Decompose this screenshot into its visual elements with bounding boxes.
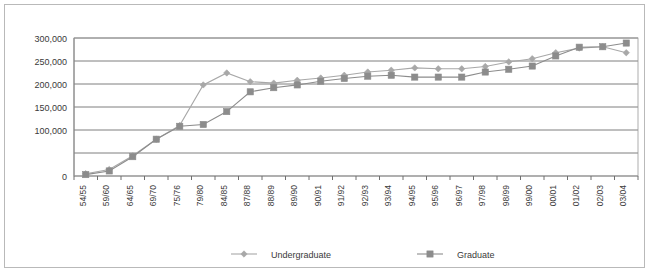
x-tick-label: 91/92 [336, 185, 346, 207]
chart-legend: UndergraduateGraduate [231, 250, 495, 260]
series-lines-group [86, 43, 627, 175]
x-tick-label: 64/65 [125, 185, 135, 207]
data-point-marker [83, 172, 89, 178]
data-point-marker [529, 63, 535, 69]
data-point-marker [200, 121, 206, 127]
x-tick-label: 87/88 [242, 185, 252, 207]
x-tick-label: 79/80 [195, 185, 205, 207]
x-tick-label: 03/04 [618, 185, 628, 207]
data-point-marker [412, 65, 418, 71]
data-point-marker [153, 136, 159, 142]
data-point-marker [318, 78, 324, 84]
chart-svg: 0100,000150,000200,000250,000300,000 54/… [5, 5, 646, 269]
x-tick-label: 59/60 [101, 185, 111, 207]
x-tick-label: 92/93 [360, 185, 370, 207]
x-tick-label: 02/03 [595, 185, 605, 207]
x-tick-label: 93/94 [383, 185, 393, 207]
x-tick-label: 99/00 [524, 185, 534, 207]
x-tick-label: 88/89 [266, 185, 276, 207]
data-point-marker [459, 74, 465, 80]
data-point-marker [623, 40, 629, 46]
x-tick-label: 97/98 [477, 185, 487, 207]
data-point-marker [200, 82, 206, 88]
y-tick-label: 250,000 [34, 57, 67, 67]
data-point-marker [506, 59, 512, 65]
x-tick-label: 98/99 [501, 185, 511, 207]
data-point-marker [553, 53, 559, 59]
data-point-marker [247, 89, 253, 95]
data-point-marker [130, 154, 136, 160]
series-line-undergraduate [86, 47, 627, 174]
data-point-marker [623, 50, 629, 56]
y-tick-label: 150,000 [34, 103, 67, 113]
x-tick-label: 84/85 [219, 185, 229, 207]
data-point-marker [224, 70, 230, 76]
data-point-marker [412, 74, 418, 80]
x-tick-label: 00/01 [548, 185, 558, 207]
data-point-marker [224, 109, 230, 115]
data-point-marker [271, 85, 277, 91]
data-point-marker [482, 69, 488, 75]
data-point-marker [435, 74, 441, 80]
data-point-marker [600, 44, 606, 50]
data-point-marker [341, 75, 347, 81]
data-point-marker [177, 123, 183, 129]
x-tick-label: 95/96 [430, 185, 440, 207]
y-tick-label: 300,000 [34, 34, 67, 44]
y-tick-label: 200,000 [34, 80, 67, 90]
data-point-marker [294, 82, 300, 88]
legend-label-undergraduate: Undergraduate [271, 250, 331, 260]
legend-label-graduate: Graduate [457, 250, 495, 260]
series-line-graduate [86, 43, 627, 175]
x-tick-label: 89/90 [289, 185, 299, 207]
x-tick-label: 54/55 [78, 185, 88, 207]
x-axis-tick-labels: 54/5559/6064/6569/7075/7679/8084/8587/88… [78, 185, 629, 207]
data-point-marker [506, 66, 512, 72]
x-tick-label: 96/97 [454, 185, 464, 207]
line-chart: 0100,000150,000200,000250,000300,000 54/… [5, 5, 646, 269]
data-point-marker [365, 73, 371, 79]
y-tick-label: 100,000 [34, 126, 67, 136]
x-tick-label: 69/70 [148, 185, 158, 207]
chart-outer-frame: 0100,000150,000200,000250,000300,000 54/… [4, 4, 645, 268]
data-point-marker [576, 44, 582, 50]
y-axis-tick-labels: 0100,000150,000200,000250,000300,000 [34, 34, 67, 182]
data-point-marker [435, 66, 441, 72]
data-point-marker [388, 72, 394, 78]
data-point-marker [106, 168, 112, 174]
x-tick-label: 90/91 [313, 185, 323, 207]
x-tick-label: 94/95 [407, 185, 417, 207]
legend-square-marker [427, 251, 433, 257]
y-tick-label: 0 [62, 172, 67, 182]
data-point-marker [459, 66, 465, 72]
x-tick-label: 01/02 [571, 185, 581, 207]
x-tick-label: 75/76 [172, 185, 182, 207]
legend-diamond-marker [241, 251, 247, 257]
x-axis-ticks [74, 176, 638, 180]
